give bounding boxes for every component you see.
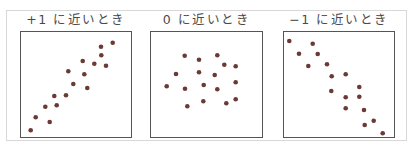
scatter-plot-zero (150, 31, 263, 138)
scatter-plot-positive (20, 31, 132, 138)
panel-title-zero: 0 に近いとき (150, 11, 263, 29)
panel-title-positive: +1 に近いとき (20, 11, 132, 29)
scatter-plot-negative (283, 31, 395, 138)
panel-title-negative: −1 に近いとき (283, 11, 395, 29)
